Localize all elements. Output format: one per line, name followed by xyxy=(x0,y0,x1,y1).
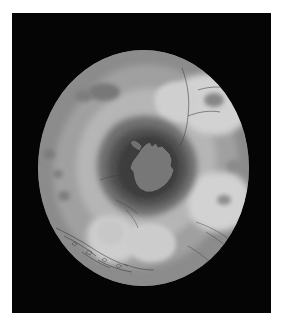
map-layers xyxy=(38,50,249,286)
figure-page xyxy=(0,0,282,328)
polar-projection-disc xyxy=(38,50,249,286)
contour-map-svg xyxy=(38,50,249,286)
plot-panel xyxy=(12,13,271,313)
raster-grain xyxy=(38,50,249,286)
